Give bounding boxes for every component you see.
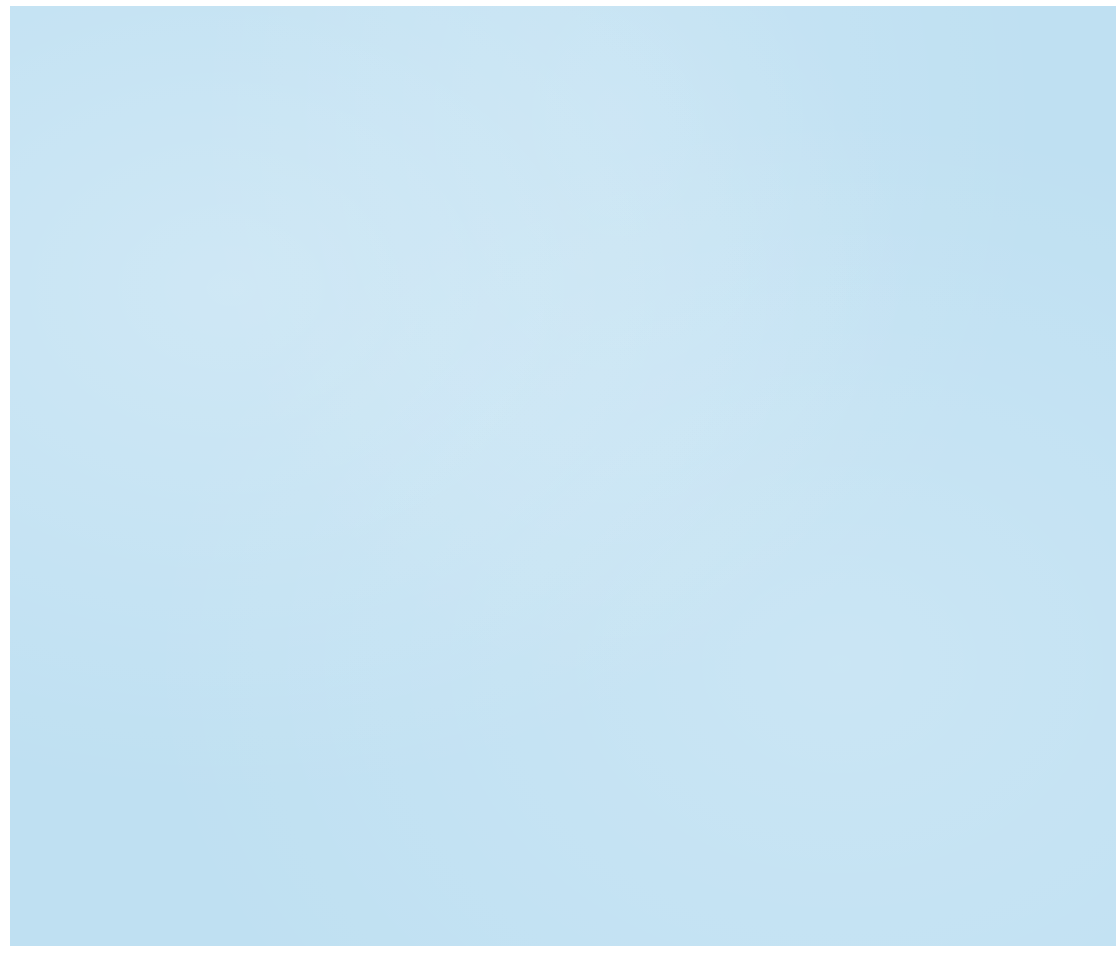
duracion-del-desempleo-chart: [88, 68, 1088, 460]
motivo-del-desempleo-chart: [88, 505, 1088, 883]
figure-page: [0, 0, 1120, 954]
